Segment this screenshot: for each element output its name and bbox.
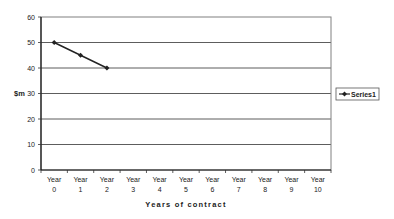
x-tick-label: 1 — [79, 186, 83, 193]
data-point-marker — [78, 53, 83, 58]
x-tick-label: 10 — [314, 186, 322, 193]
x-tick-label: 9 — [290, 186, 294, 193]
x-tick-label: 8 — [263, 186, 267, 193]
x-tick-label: 2 — [105, 186, 109, 193]
x-tick-label: 7 — [237, 186, 241, 193]
data-point-marker — [104, 65, 109, 70]
x-tick-label: 6 — [210, 186, 214, 193]
legend: Series1 — [336, 88, 379, 100]
x-tick-label: Year — [73, 176, 88, 183]
x-tick-label: Year — [126, 176, 141, 183]
x-tick-label: Year — [47, 176, 62, 183]
x-tick-label: Year — [232, 176, 247, 183]
x-tick-label: 4 — [158, 186, 162, 193]
y-axis-ticks: 0102030405060 — [27, 14, 41, 174]
y-tick-label: 60 — [27, 14, 35, 21]
y-tick-label: 10 — [27, 141, 35, 148]
x-tick-label: Year — [258, 176, 273, 183]
data-point-marker — [52, 40, 57, 45]
x-tick-label: Year — [179, 176, 194, 183]
series-lines — [52, 40, 110, 71]
x-tick-label: 0 — [52, 186, 56, 193]
legend-label: Series1 — [351, 91, 376, 98]
x-axis-title: Years of contract — [145, 200, 226, 209]
y-tick-label: 50 — [27, 39, 35, 46]
y-tick-label: 40 — [27, 65, 35, 72]
x-tick-label: Year — [311, 176, 326, 183]
x-tick-label: 3 — [131, 186, 135, 193]
y-tick-label: 30 — [27, 90, 35, 97]
y-tick-label: 20 — [27, 116, 35, 123]
x-tick-label: Year — [205, 176, 220, 183]
line-chart: 0102030405060 Year0Year1Year2Year3Year4Y… — [0, 0, 394, 219]
x-tick-label: Year — [153, 176, 168, 183]
y-tick-label: 0 — [31, 167, 35, 174]
x-tick-label: Year — [100, 176, 115, 183]
y-axis-title: $m — [14, 89, 25, 98]
x-axis-ticks: Year0Year1Year2Year3Year4Year5Year6Year7… — [41, 170, 331, 193]
x-tick-label: 5 — [184, 186, 188, 193]
x-tick-label: Year — [284, 176, 299, 183]
